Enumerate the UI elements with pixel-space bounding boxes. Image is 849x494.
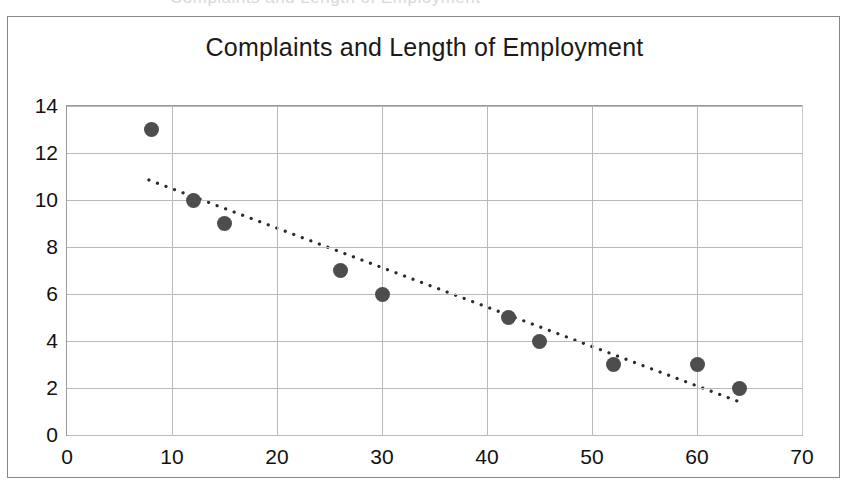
gridline-horizontal [67, 294, 802, 295]
gridline-horizontal [67, 435, 802, 436]
x-axis-tick-label: 0 [61, 445, 73, 469]
y-axis-tick-label: 8 [46, 235, 58, 259]
gridline-vertical [277, 106, 278, 435]
x-axis-tick-label: 20 [265, 445, 288, 469]
gridline-horizontal [67, 388, 802, 389]
gridline-horizontal [67, 341, 802, 342]
data-point [606, 357, 621, 372]
data-point [186, 193, 201, 208]
chart-frame: Complaints and Length of Employment 0246… [7, 16, 840, 478]
chart-title: Complaints and Length of Employment [8, 33, 841, 62]
gridline-vertical [172, 106, 173, 435]
gridline-vertical [697, 106, 698, 435]
y-axis-tick-label: 6 [46, 282, 58, 306]
data-point [690, 357, 705, 372]
x-axis-tick-label: 10 [160, 445, 183, 469]
y-axis-tick-label: 10 [35, 188, 58, 212]
y-axis-tick-label: 12 [35, 141, 58, 165]
y-axis-tick-label: 2 [46, 376, 58, 400]
cropped-text-artifact: Complaints and Length of Employment [0, 0, 849, 14]
y-axis-tick-label: 0 [46, 423, 58, 447]
data-point [732, 381, 747, 396]
x-axis-tick-label: 70 [790, 445, 813, 469]
gridline-horizontal [67, 106, 802, 107]
y-axis-tick-label: 4 [46, 329, 58, 353]
gridline-vertical [382, 106, 383, 435]
gridline-horizontal [67, 200, 802, 201]
gridline-vertical [592, 106, 593, 435]
gridline-horizontal [67, 153, 802, 154]
data-point [217, 216, 232, 231]
data-point [532, 334, 547, 349]
data-point [501, 310, 516, 325]
gridline-horizontal [67, 247, 802, 248]
ghost-title-text: Complaints and Length of Employment [170, 0, 480, 8]
data-point [375, 287, 390, 302]
y-axis-tick-label: 14 [35, 94, 58, 118]
data-point [144, 122, 159, 137]
x-axis-tick-label: 30 [370, 445, 393, 469]
gridline-vertical [487, 106, 488, 435]
plot-area: 02468101214010203040506070 [66, 105, 803, 436]
x-axis-tick-label: 40 [475, 445, 498, 469]
x-axis-tick-label: 60 [685, 445, 708, 469]
trendline [67, 106, 802, 435]
data-point [333, 263, 348, 278]
chart-screenshot: Complaints and Length of Employment Comp… [0, 0, 849, 494]
x-axis-tick-label: 50 [580, 445, 603, 469]
